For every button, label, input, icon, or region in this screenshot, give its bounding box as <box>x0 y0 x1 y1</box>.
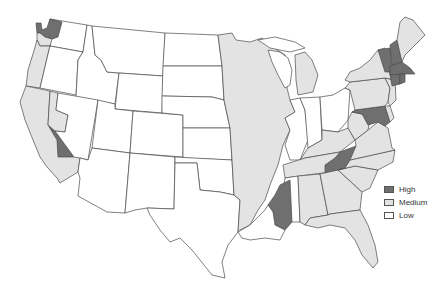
state-new-mexico <box>125 153 175 213</box>
legend-swatch-low <box>384 212 394 219</box>
state-pennsylvania <box>345 78 390 110</box>
legend-item-high: High <box>384 183 427 195</box>
state-wyoming <box>115 73 163 113</box>
state-kansas <box>183 128 232 160</box>
legend-label-medium: Medium <box>399 198 427 207</box>
state-colorado <box>130 111 183 157</box>
state-michigan-lower <box>295 52 318 95</box>
state-north-dakota <box>163 33 222 66</box>
legend-swatch-medium <box>384 199 394 206</box>
map-legend: High Medium Low <box>384 183 427 222</box>
legend-item-low: Low <box>384 209 427 221</box>
state-maine <box>397 17 425 62</box>
legend-swatch-high <box>384 186 394 193</box>
state-ohio <box>320 88 350 132</box>
state-florida <box>305 210 378 268</box>
state-connecticut <box>390 74 400 86</box>
us-map <box>0 0 443 285</box>
legend-label-high: High <box>399 185 415 194</box>
legend-label-low: Low <box>399 211 414 220</box>
state-rhode-island <box>400 74 405 84</box>
legend-item-medium: Medium <box>384 196 427 208</box>
state-south-dakota <box>162 66 224 100</box>
